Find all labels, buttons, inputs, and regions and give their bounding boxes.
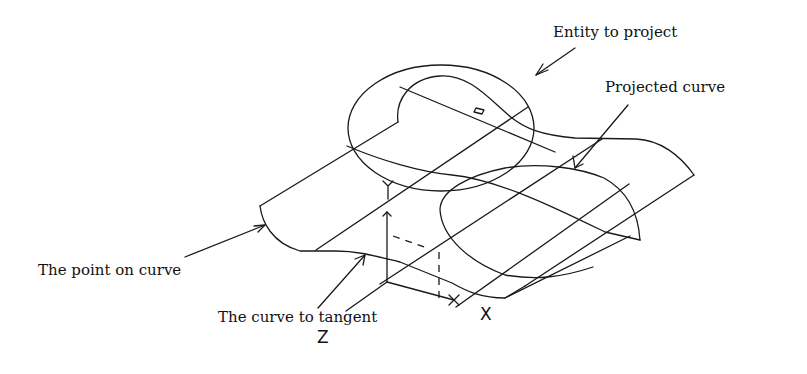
axis-label-x: X (480, 304, 492, 324)
diagram-canvas: Entity to project Projected curve The po… (0, 0, 807, 374)
entity-ellipse (348, 65, 534, 191)
label-entity-to-project: Entity to project (553, 23, 677, 41)
label-projected-curve: Projected curve (605, 78, 725, 96)
projected-curve (440, 166, 640, 278)
label-point-on-curve: The point on curve (38, 261, 181, 279)
label-curve-to-tangent: The curve to tangent (218, 308, 377, 326)
arrowhead-icon (573, 156, 583, 168)
center-marker-icon (474, 108, 484, 114)
axis-label-z: Z (317, 327, 329, 347)
surface-projection-diagram: Entity to project Projected curve The po… (0, 0, 807, 374)
surface-isolines (316, 87, 640, 307)
callout-arrows (185, 48, 628, 308)
arrowhead-icon (536, 64, 548, 75)
